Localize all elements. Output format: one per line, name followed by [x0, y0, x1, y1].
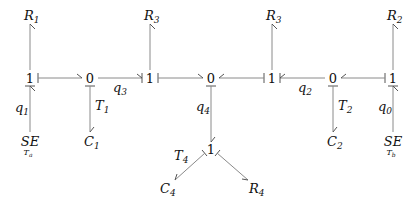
element-R3-left: R3	[143, 8, 160, 25]
element-R2: R2	[386, 8, 403, 25]
junction-1-d: 1	[389, 71, 397, 86]
bond-j7-j6	[341, 73, 385, 83]
bond-label-q1: q1	[15, 100, 29, 117]
bond-j5-j4	[219, 73, 264, 83]
element-R4: R4	[248, 181, 265, 198]
element-SE-Tb: SE Tb	[384, 134, 403, 158]
bond-j1-j2	[38, 73, 82, 83]
bond-label-T4: T4	[174, 148, 189, 165]
bond-graph-diagram: 1 0 1 0 1 0 1 1 R1 R3 R3 R2 SE Ta C1 C2 …	[0, 0, 419, 205]
bond-j2-C1	[85, 86, 95, 132]
bond-j5-R3	[272, 24, 277, 70]
element-C1: C1	[84, 134, 100, 151]
element-R1: R1	[23, 8, 40, 25]
junction-1-a: 1	[26, 71, 34, 86]
bond-label-T2: T2	[338, 98, 353, 115]
bond-label-q3: q3	[113, 80, 127, 97]
junction-1-b: 1	[146, 71, 154, 86]
element-SE-Ta: SE Ta	[21, 134, 40, 158]
bond-j3-j4	[158, 73, 203, 83]
bond-j1-R1	[30, 24, 35, 70]
bond-label-q2: q2	[298, 80, 312, 97]
element-C4: C4	[160, 181, 176, 198]
svg-text:SE: SE	[384, 134, 403, 149]
junction-0-a: 0	[86, 71, 94, 86]
bond-label-q0: q0	[378, 99, 392, 116]
junction-1-c: 1	[268, 71, 276, 86]
bond-j7-R2	[393, 24, 398, 70]
junction-0-b: 0	[207, 71, 215, 86]
svg-text:Ta: Ta	[24, 148, 33, 158]
bond-label-q4: q4	[196, 99, 210, 116]
bond-j6-C2	[328, 86, 338, 132]
element-R3-right: R3	[265, 8, 282, 25]
bond-j3-R3	[150, 24, 155, 70]
junction-0-c: 0	[329, 71, 337, 86]
bond-label-T1: T1	[95, 98, 109, 115]
element-C2: C2	[327, 134, 343, 151]
svg-text:Tb: Tb	[386, 148, 395, 158]
junction-1-e: 1	[207, 142, 215, 157]
bond-j8-R4	[215, 150, 248, 180]
svg-text:SE: SE	[21, 134, 40, 149]
